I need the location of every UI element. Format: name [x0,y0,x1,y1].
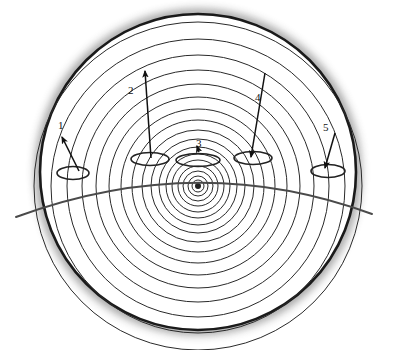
callout-label-2: 2 [128,85,134,96]
callout-label-5: 5 [323,122,329,133]
callout-label-1: 1 [58,120,64,131]
callout-label-3: 3 [196,138,202,149]
wave-diagram [0,0,398,350]
callout-label-4: 4 [255,92,261,103]
wave-core-dot [195,183,201,189]
